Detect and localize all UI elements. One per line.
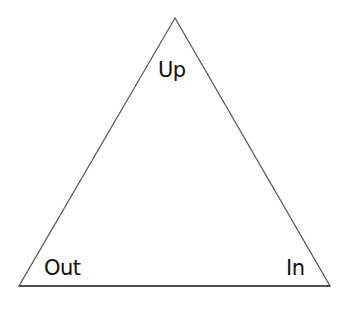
label-up: Up: [158, 60, 186, 81]
label-out: Out: [44, 258, 81, 279]
label-in: In: [286, 258, 305, 279]
